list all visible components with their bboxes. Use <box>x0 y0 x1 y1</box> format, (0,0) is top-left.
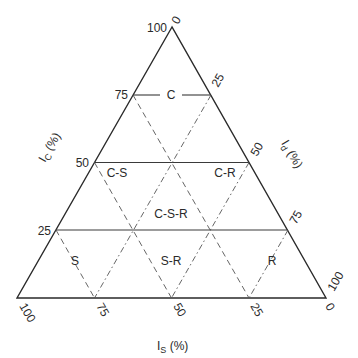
tick-right-50: 50 <box>247 140 266 159</box>
region-s-r: S-R <box>161 254 182 268</box>
svg-text:Id (%): Id (%) <box>277 138 306 172</box>
tick-left-75: 75 <box>115 88 129 102</box>
tick-right-0: 0 <box>168 13 184 26</box>
region-c-s: C-S <box>107 166 128 180</box>
tick-left-100: 100 <box>147 21 167 35</box>
tick-left-50: 50 <box>76 156 90 170</box>
tick-right-100: 100 <box>324 269 346 294</box>
tick-bottom-25: 25 <box>247 301 266 320</box>
tick-bottom-75: 75 <box>93 301 112 320</box>
svg-text:IC (%): IC (%) <box>35 130 65 166</box>
dashed-line-75 <box>133 95 249 298</box>
svg-text:IS (%): IS (%) <box>157 339 188 355</box>
dashdot-line-25 <box>95 95 212 298</box>
ternary-diagram: 100 75 50 25 0 25 50 75 100 100 75 50 25… <box>0 0 358 358</box>
tick-bottom-0: 0 <box>322 301 338 314</box>
tick-left-25: 25 <box>38 224 52 238</box>
tick-bottom-100: 100 <box>16 301 38 326</box>
axis-label-is: IS (%) <box>157 339 188 355</box>
axis-label-ic: IC (%) <box>35 130 65 166</box>
region-s: S <box>71 254 79 268</box>
axis-label-id: Id (%) <box>277 138 306 172</box>
region-r: R <box>268 254 277 268</box>
tick-right-25: 25 <box>208 71 227 90</box>
region-c-s-r: C-S-R <box>154 207 188 221</box>
region-c-r: C-R <box>214 166 236 180</box>
tick-bottom-50: 50 <box>170 301 189 320</box>
region-c: C <box>167 88 176 102</box>
tick-right-75: 75 <box>286 208 305 227</box>
